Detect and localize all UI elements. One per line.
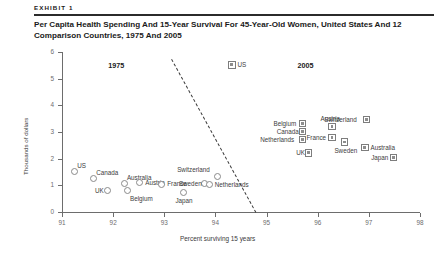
point-label-1975-Netherlands: Netherlands: [215, 181, 249, 188]
data-point-1975-Canada: [90, 175, 97, 182]
point-label-1975-US: US: [77, 162, 86, 169]
data-point-1975-France: [158, 181, 165, 188]
data-point-2005-UK: [305, 149, 313, 157]
point-label-2005-Netherlands: Netherlands: [260, 136, 294, 143]
data-point-1975-Austria: [136, 179, 143, 186]
data-point-2005-Netherlands: [299, 136, 307, 144]
data-point-1975-Switzerland: [214, 173, 221, 180]
point-label-1975-Canada: Canada: [96, 169, 118, 176]
data-point-1975-Australia: [121, 180, 128, 187]
point-label-2005-Australia: Australia: [371, 144, 396, 151]
data-point-2005-Switzerland: [363, 116, 371, 124]
point-label-1975-Switzerland: Switzerland: [177, 166, 210, 173]
data-point-2005-Austria: [328, 123, 336, 131]
point-label-2005-Japan: Japan: [371, 154, 388, 161]
data-point-2005-Canada: [299, 128, 307, 136]
data-point-1975-US: [71, 168, 78, 175]
point-label-2005-Switzerland: Switzerland: [324, 116, 357, 123]
point-label-2005-Belgium: Belgium: [274, 120, 297, 127]
point-label-2005-Canada: Canada: [277, 128, 299, 135]
data-point-2005-US: [228, 61, 236, 69]
point-label-1975-Japan: Japan: [175, 197, 192, 204]
point-label-1975-Belgium: Belgium: [130, 195, 153, 202]
data-point-2005-Australia: [361, 144, 369, 152]
point-label-1975-Sweden: Sweden: [179, 180, 202, 187]
data-point-2005-Belgium: [299, 120, 307, 128]
data-point-1975-Netherlands: [206, 181, 213, 188]
point-label-2005-UK: UK: [296, 149, 305, 156]
data-point-1975-UK: [104, 187, 111, 194]
point-label-2005-Sweden: Sweden: [334, 147, 357, 154]
data-point-2005-Sweden: [341, 138, 349, 146]
data-point-2005-Japan: [390, 154, 398, 162]
exhibit-page: EXHIBIT 1 Per Capita Health Spending And…: [0, 0, 441, 259]
point-label-1975-UK: UK: [95, 187, 104, 194]
data-point-1975-Belgium: [124, 187, 131, 194]
data-point-2005-France: [328, 134, 336, 142]
point-label-2005-US: US: [238, 61, 247, 68]
point-label-2005-France: France: [306, 134, 326, 141]
data-point-1975-Japan: [180, 189, 187, 196]
data-points-layer: USCanadaUKAustraliaBelgiumAustriaFranceJ…: [0, 0, 441, 259]
